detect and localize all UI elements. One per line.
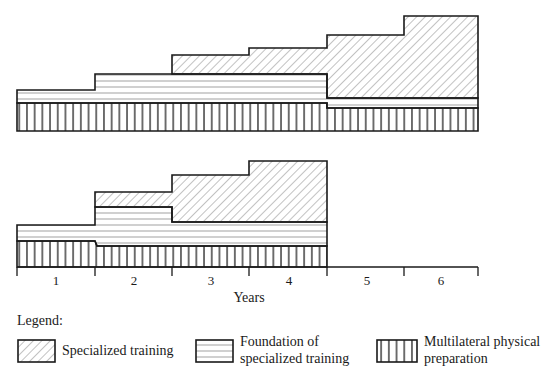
legend-item-specialized: Specialized training bbox=[62, 342, 174, 359]
legend-label-multilateral-line1: Multilateral physical bbox=[424, 333, 540, 350]
legend-swatch-foundation bbox=[196, 340, 233, 362]
legend-label-foundation-line2: specialized training bbox=[240, 350, 349, 367]
x-tick-label-3: 3 bbox=[208, 273, 215, 289]
legend-item-foundation: Foundation of specialized training bbox=[240, 333, 349, 367]
legend-swatch-specialized bbox=[18, 340, 55, 362]
bottom-plan bbox=[17, 161, 478, 276]
legend-label-multilateral: Multilateral physical preparation bbox=[424, 333, 540, 367]
x-axis-ticks bbox=[17, 267, 478, 276]
x-tick-label-2: 2 bbox=[131, 273, 138, 289]
legend-label-foundation: Foundation of specialized training bbox=[240, 333, 349, 367]
x-tick-label-4: 4 bbox=[286, 273, 293, 289]
legend-item-multilateral: Multilateral physical preparation bbox=[424, 333, 540, 367]
legend-label-foundation-line1: Foundation of bbox=[240, 333, 349, 350]
x-tick-label-5: 5 bbox=[364, 273, 371, 289]
legend-label-specialized: Specialized training bbox=[62, 342, 174, 359]
legend-swatch-multilateral bbox=[377, 340, 417, 362]
x-tick-label-6: 6 bbox=[438, 273, 445, 289]
x-tick-label-1: 1 bbox=[53, 273, 60, 289]
legend-label-multilateral-line2: preparation bbox=[424, 350, 540, 367]
training-plan-diagram bbox=[0, 0, 549, 379]
top-plan bbox=[17, 16, 478, 131]
x-axis-title: Years bbox=[233, 290, 264, 306]
legend-title: Legend: bbox=[17, 313, 63, 329]
